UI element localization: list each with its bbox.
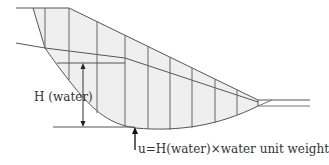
pore-pressure-label: u=H(water)×water unit weight [138,142,329,156]
toe-diagonal [258,100,272,106]
sliding-mass [33,8,258,129]
arrowhead-down-icon [81,121,86,127]
h-water-label: H (water) [34,90,93,104]
